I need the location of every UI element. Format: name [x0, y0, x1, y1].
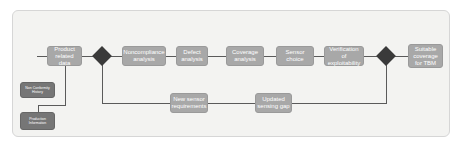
connector-decision1-down: [102, 63, 103, 103]
node-production-information: Production Information: [20, 112, 55, 130]
connector-decision2-down: [386, 63, 387, 103]
node-noncompliance-analysis: Noncompliance analysis: [122, 46, 166, 66]
node-defect-analysis: Defect analysis: [176, 46, 208, 66]
node-non-conformity-history: Non Conformity History: [20, 82, 55, 98]
node-new-sensor-requirements: New sensor requirements: [170, 93, 208, 113]
node-product-related-data: Product related data: [47, 46, 82, 66]
node-verification-of-exploitability: Verification of exploitability: [324, 46, 364, 66]
node-coverage-analysis: Coverage analysis: [226, 46, 264, 66]
node-suitable-coverage-for-tbm: Suitable coverage for TBM: [408, 44, 443, 68]
connector-sources: [65, 66, 66, 105]
diagram-frame: [12, 10, 450, 137]
connector-entry: [37, 56, 47, 57]
node-updated-sensing-gap: Updated sensing gap: [255, 93, 292, 113]
node-sensor-choice: Sensor choice: [276, 46, 314, 66]
connector-feedback: [102, 103, 387, 104]
connector-sources-h: [38, 105, 66, 106]
